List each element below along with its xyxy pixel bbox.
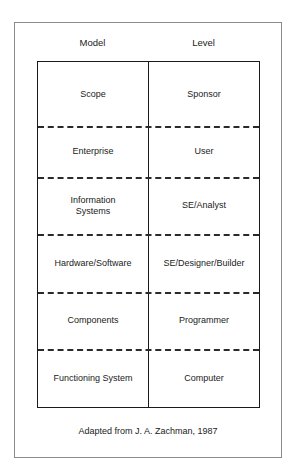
level-cell: SE/Designer/Builder [149, 234, 259, 292]
model-cell: Components [38, 292, 148, 349]
table-row: Hardware/SoftwareSE/Designer/Builder [38, 234, 259, 292]
column-header-model: Model [37, 37, 148, 48]
table-row: EnterpriseUser [38, 126, 259, 177]
level-cell: SE/Analyst [149, 177, 259, 234]
model-cell: Functioning System [38, 349, 148, 407]
model-cell: Enterprise [38, 126, 148, 177]
source-caption: Adapted from J. A. Zachman, 1987 [14, 426, 282, 436]
table-row: ScopeSponsor [38, 62, 259, 126]
level-cell: Sponsor [149, 62, 259, 126]
level-cell: User [149, 126, 259, 177]
model-level-table: ScopeSponsorEnterpriseUserInformation Sy… [37, 61, 260, 408]
column-header-level: Level [148, 37, 259, 48]
table-row: Information SystemsSE/Analyst [38, 177, 259, 234]
level-cell: Computer [149, 349, 259, 407]
model-cell: Scope [38, 62, 148, 126]
model-cell: Information Systems [38, 177, 148, 234]
level-cell: Programmer [149, 292, 259, 349]
model-cell: Hardware/Software [38, 234, 148, 292]
table-row: ComponentsProgrammer [38, 292, 259, 349]
table-row: Functioning SystemComputer [38, 349, 259, 407]
